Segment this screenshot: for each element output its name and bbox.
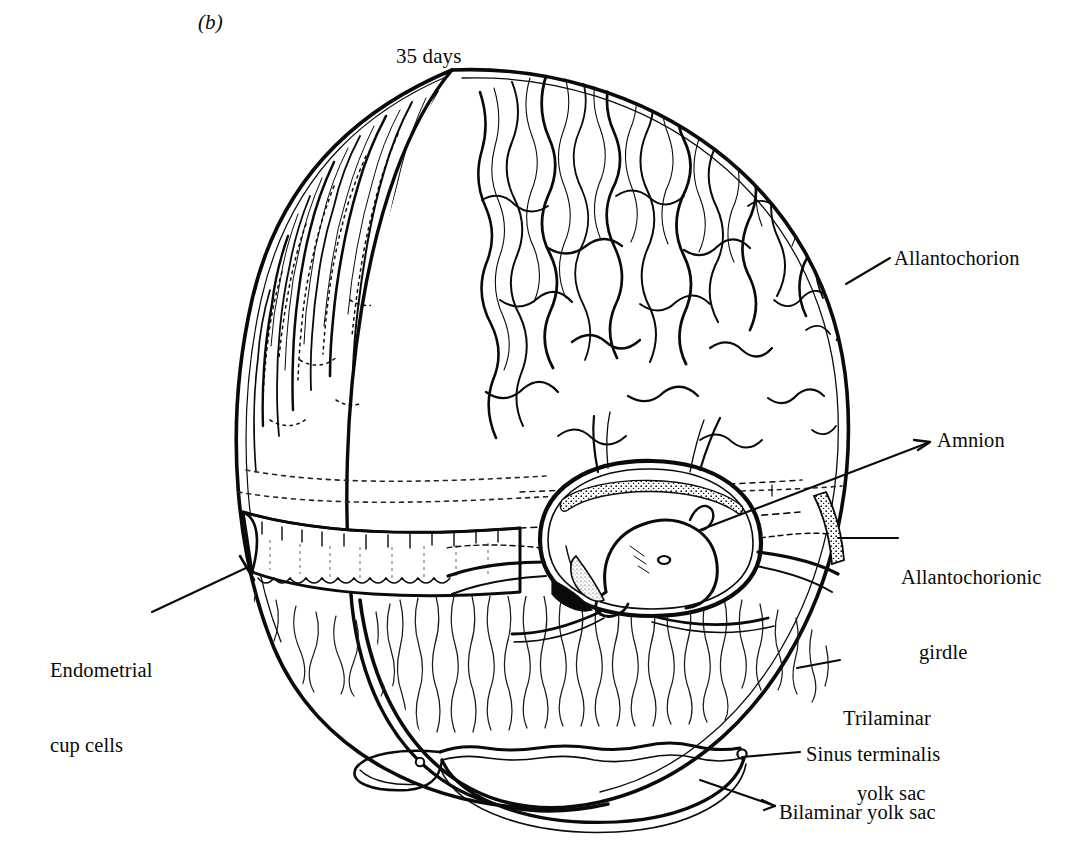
stage-label: 35 days [396,44,461,69]
amnion-sac [540,461,761,616]
panel-letter: (b) [198,10,223,35]
endometrial-cup-band [243,512,520,596]
trilaminar-yolk-sac-texture [372,596,828,734]
label-allantochorion: Allantochorion [894,246,1020,271]
label-girdle-line1: Allantochorionic [901,565,1042,590]
label-trilaminar-line1: Trilaminar [843,706,931,731]
label-sinus-terminalis: Sinus terminalis [806,742,940,767]
figure-page: (b) 35 days Allantochorion Amnion Allant… [0,0,1085,857]
allantochorion-vessels-front [478,70,843,448]
leader-sinus [742,752,800,757]
hidden-boundary-dotted [238,470,842,502]
label-endometrial-line1: Endometrial [50,658,152,683]
label-amnion: Amnion [937,428,1005,453]
label-bilaminar-yolk-sac: Bilaminar yolk sac [779,800,936,825]
leader-trilaminar [797,660,840,668]
front-hemisphere-outline [360,70,848,808]
label-endometrial-line2: cup cells [50,733,152,758]
leader-endometrial [152,568,246,612]
leader-bilaminar-arrowhead [762,800,775,810]
label-endometrial-cup-cells: Endometrial cup cells [50,608,152,808]
leader-allantochorion [846,258,890,284]
allantochorionic-girdle-band [814,492,844,564]
